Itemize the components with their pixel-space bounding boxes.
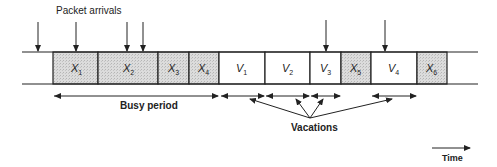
packet-arrivals-label: Packet arrivals [56, 5, 122, 16]
time-label: Time [442, 153, 463, 163]
arrival-arrows [38, 20, 385, 51]
busy-period-label: Busy period [120, 100, 178, 111]
vacation-pointers [250, 99, 392, 118]
vacations-label: Vacations [291, 122, 338, 133]
vacation-queue-diagram: Packet arrivals X1 X2 X3 X4 V1 V2 V3 X5 [0, 0, 497, 167]
